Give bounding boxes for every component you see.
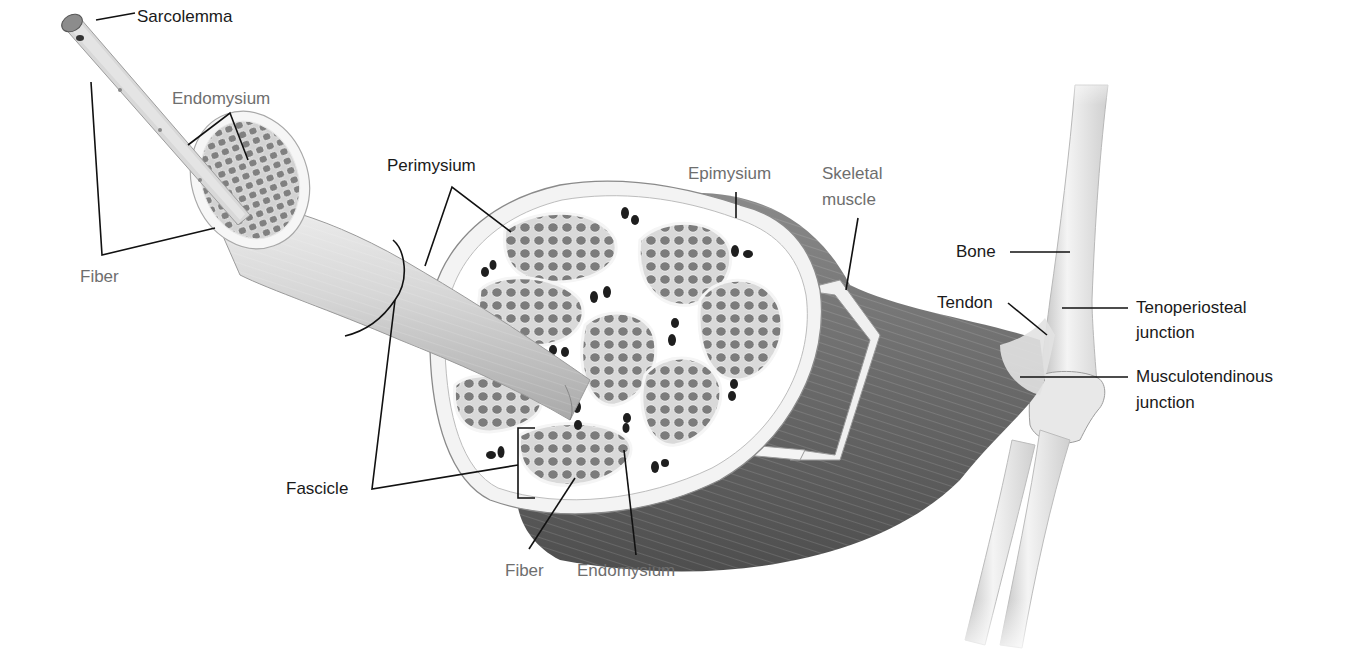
label-endomysium-bottom: Endomysium <box>577 560 675 581</box>
fascicle-1 <box>504 213 616 282</box>
label-tenoperiosteal-line2: junction <box>1136 322 1195 343</box>
label-musculotendinous-line2: junction <box>1136 392 1195 413</box>
label-fascicle: Fascicle <box>286 478 348 499</box>
label-skeletal-muscle-line1: Skeletal <box>822 163 882 184</box>
label-tenoperiosteal-line1: Tenoperiosteal <box>1136 297 1247 318</box>
label-bone: Bone <box>956 241 996 262</box>
label-epimysium: Epimysium <box>688 163 771 184</box>
label-perimysium: Perimysium <box>387 155 476 176</box>
label-tendon: Tendon <box>937 292 993 313</box>
label-skeletal-muscle-line2: muscle <box>822 189 876 210</box>
label-endomysium-top: Endomysium <box>172 88 270 109</box>
label-fiber-bottom: Fiber <box>505 560 544 581</box>
label-fiber-left: Fiber <box>80 266 119 287</box>
label-sarcolemma: Sarcolemma <box>137 6 232 27</box>
label-musculotendinous-line1: Musculotendinous <box>1136 366 1273 387</box>
